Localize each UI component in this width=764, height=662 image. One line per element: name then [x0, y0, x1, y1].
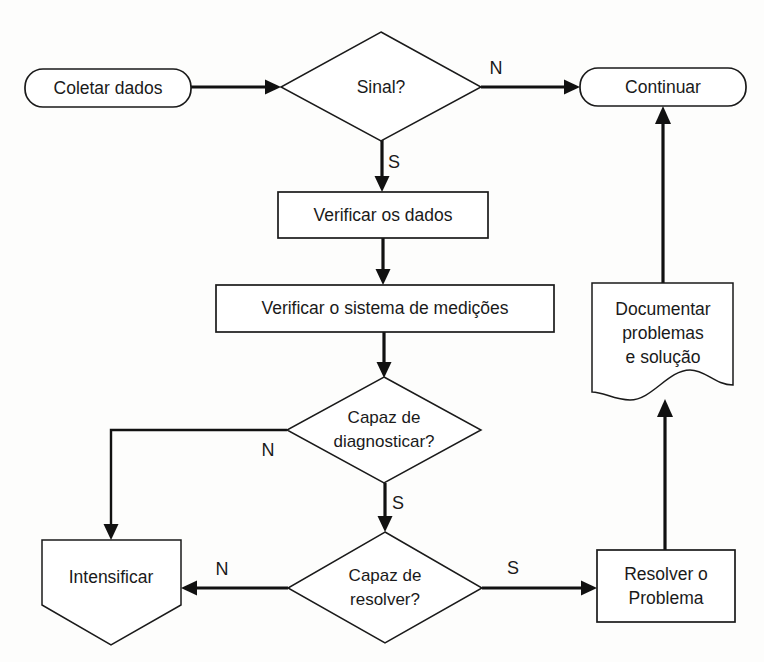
- node-capaz-diagnosticar-label-line2: diagnosticar?: [333, 432, 434, 451]
- node-continuar[interactable]: Continuar: [580, 68, 746, 106]
- edge-resolver-yes-to-resolver-problema: [482, 581, 597, 596]
- node-continuar-label: Continuar: [625, 77, 701, 97]
- edge-resolver-problema-to-documentar: [657, 399, 673, 550]
- flowchart-svg: Coletar dados Sinal? Continuar Verificar…: [0, 0, 764, 662]
- edge-verificar-sistema-to-diagnosticar: [377, 332, 392, 378]
- node-verificar-os-dados[interactable]: Verificar os dados: [278, 192, 488, 238]
- edge-label-diagnosticar-no: N: [262, 440, 275, 460]
- edge-label-sinal-no: N: [490, 58, 503, 78]
- edge-verificar-dados-to-verificar-sistema: [376, 238, 391, 285]
- flowchart-canvas: Coletar dados Sinal? Continuar Verificar…: [0, 0, 764, 662]
- node-intensificar[interactable]: Intensificar: [42, 540, 181, 645]
- node-documentar-label-line3: e solução: [626, 347, 701, 367]
- node-verificar-sistema-medicoes[interactable]: Verificar o sistema de medições: [216, 285, 554, 332]
- edge-resolver-no-to-intensificar: [181, 581, 288, 596]
- edge-diagnosticar-no-to-intensificar: [104, 430, 288, 540]
- node-capaz-resolver-label-line2: resolver?: [350, 590, 420, 609]
- node-capaz-resolver-decision[interactable]: Capaz de resolver?: [288, 532, 482, 643]
- node-documentar-label-line1: Documentar: [615, 299, 710, 319]
- node-capaz-resolver-label-line1: Capaz de: [349, 566, 422, 585]
- node-capaz-diagnosticar-decision[interactable]: Capaz de diagnosticar?: [287, 377, 481, 483]
- node-sinal-label: Sinal?: [357, 77, 406, 97]
- edge-label-diagnosticar-yes: S: [392, 493, 404, 513]
- edge-label-resolver-yes: S: [507, 558, 519, 578]
- node-coletar-dados-label: Coletar dados: [54, 78, 163, 98]
- node-documentar[interactable]: Documentar problemas e solução: [592, 283, 733, 400]
- node-documentar-label-line2: problemas: [622, 323, 704, 343]
- edge-label-resolver-no: N: [216, 559, 229, 579]
- node-sinal-decision[interactable]: Sinal?: [281, 32, 481, 141]
- node-resolver-problema-label-line1: Resolver o: [624, 564, 708, 584]
- node-verificar-os-dados-label: Verificar os dados: [313, 205, 452, 225]
- edge-diagnosticar-yes-to-resolver: [378, 483, 393, 532]
- edge-label-sinal-yes: S: [388, 152, 400, 172]
- node-capaz-diagnosticar-label-line1: Capaz de: [348, 408, 421, 427]
- node-intensificar-label: Intensificar: [69, 567, 154, 587]
- edge-sinal-no-to-continuar: [481, 80, 580, 95]
- node-resolver-problema-label-line2: Problema: [629, 588, 704, 608]
- edge-documentar-to-continuar: [655, 106, 671, 283]
- edge-coletar-to-sinal: [191, 80, 281, 95]
- node-verificar-sistema-medicoes-label: Verificar o sistema de medições: [261, 298, 508, 318]
- node-resolver-problema[interactable]: Resolver o Problema: [597, 550, 735, 622]
- node-coletar-dados[interactable]: Coletar dados: [25, 69, 191, 107]
